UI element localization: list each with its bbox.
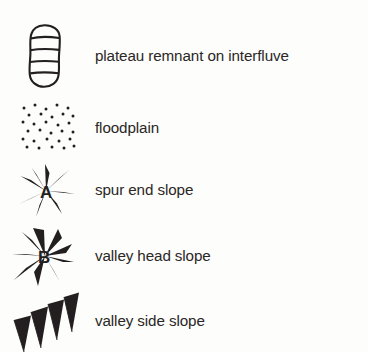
legend-row: A spur end slope <box>0 161 368 219</box>
legend-label: plateau remnant on interfluve <box>95 48 368 65</box>
symbol-letter-b: B <box>38 248 50 267</box>
floodplain-symbol <box>0 100 95 156</box>
legend-label: valley head slope <box>95 248 368 265</box>
legend-row: plateau remnant on interfluve <box>0 22 368 90</box>
legend-row: valley side slope <box>0 290 368 352</box>
legend-label: spur end slope <box>95 182 368 199</box>
valley-head-slope-symbol: B <box>0 224 95 288</box>
legend-label: floodplain <box>95 120 368 137</box>
symbol-letter-a: A <box>40 183 52 202</box>
legend-row: floodplain <box>0 100 368 156</box>
plateau-remnant-symbol <box>0 22 95 90</box>
valley-side-slope-symbol <box>0 290 95 352</box>
spur-end-slope-symbol: A <box>0 161 95 219</box>
map-legend: plateau remnant on interfluve <box>0 0 368 352</box>
legend-row: B valley head slope <box>0 224 368 288</box>
legend-label: valley side slope <box>95 313 368 330</box>
